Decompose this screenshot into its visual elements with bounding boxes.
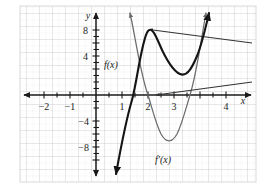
graph-figure: 8 4 −4 −8 −2 −1 1 2 3 4 y x f(x) f′(x) xyxy=(0,0,264,188)
curve-label-f-prime: f′(x) xyxy=(155,154,172,166)
y-tick-label-neg8: −8 xyxy=(78,142,89,153)
curve-label-f: f(x) xyxy=(104,59,119,71)
y-axis-label: y xyxy=(85,10,91,21)
y-tick-label-8: 8 xyxy=(83,25,88,36)
x-axis-label: x xyxy=(240,95,246,106)
x-tick-label-2: 2 xyxy=(146,101,151,112)
x-tick-label-1: 1 xyxy=(120,101,125,112)
x-tick-label-4: 4 xyxy=(224,101,229,112)
y-tick-label-neg4: −4 xyxy=(78,116,89,127)
y-tick-label-4: 4 xyxy=(83,51,88,62)
grid-background xyxy=(20,6,256,182)
x-tick-label-neg2: −2 xyxy=(39,101,50,112)
x-tick-label-3: 3 xyxy=(172,101,177,112)
x-tick-label-neg1: −1 xyxy=(65,101,76,112)
coordinate-plot: 8 4 −4 −8 −2 −1 1 2 3 4 y x f(x) f′(x) xyxy=(0,0,264,188)
